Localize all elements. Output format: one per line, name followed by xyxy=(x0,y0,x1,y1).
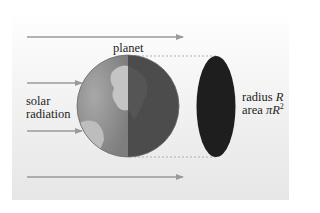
planet-globe-icon xyxy=(76,54,180,158)
area-label: area πR2 xyxy=(242,104,284,117)
radius-prefix: radius xyxy=(242,90,273,104)
shadow-disk xyxy=(197,56,236,157)
area-exponent: 2 xyxy=(280,102,284,111)
area-prefix: area xyxy=(242,103,263,117)
planet-label: planet xyxy=(113,42,144,55)
radiation-label: radiation xyxy=(26,108,70,121)
area-symbol: πR xyxy=(266,103,280,117)
